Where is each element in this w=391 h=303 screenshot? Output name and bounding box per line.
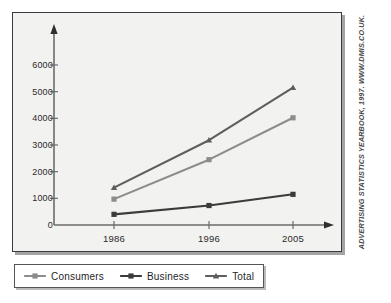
- x-axis-tick-label: 1986: [103, 233, 125, 244]
- x-axis-tick-labels: 198619962005: [13, 13, 341, 251]
- source-credit: ADVERTISING STATISTICS YEARBOOK, 1997. W…: [352, 12, 370, 252]
- x-axis-tick-label: 2005: [282, 233, 304, 244]
- legend-swatch-business-icon: [120, 271, 142, 281]
- legend-label: Total: [232, 271, 254, 282]
- x-axis-tick-label: 1996: [198, 233, 220, 244]
- source-credit-text: ADVERTISING STATISTICS YEARBOOK, 1997. W…: [357, 15, 366, 249]
- legend-item-consumers[interactable]: Consumers: [24, 271, 104, 282]
- legend-item-business[interactable]: Business: [120, 271, 189, 282]
- legend-item-total[interactable]: Total: [205, 271, 254, 282]
- legend-swatch-total-icon: [205, 271, 227, 281]
- chart-figure: 0100020003000400050006000 198619962005 A…: [0, 0, 391, 303]
- chart-panel: 0100020003000400050006000 198619962005: [12, 12, 342, 252]
- chart-legend: ConsumersBusinessTotal: [14, 264, 264, 288]
- legend-label: Business: [147, 271, 189, 282]
- legend-label: Consumers: [51, 271, 104, 282]
- legend-swatch-consumers-icon: [24, 271, 46, 281]
